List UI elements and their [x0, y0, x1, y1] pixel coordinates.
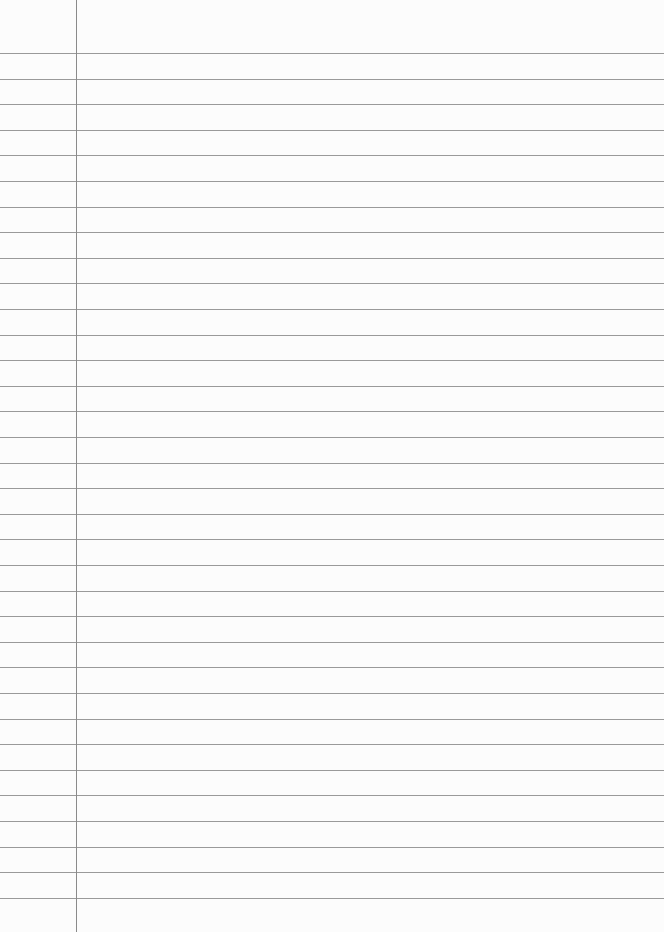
ruled-line	[0, 309, 664, 310]
ruled-line	[0, 821, 664, 822]
ruled-line	[0, 616, 664, 617]
ruled-line	[0, 360, 664, 361]
ruled-line	[0, 232, 664, 233]
ruled-line	[0, 411, 664, 412]
ruled-line	[0, 642, 664, 643]
ruled-line	[0, 744, 664, 745]
ruled-line	[0, 104, 664, 105]
ruled-line	[0, 795, 664, 796]
ruled-line	[0, 155, 664, 156]
ruled-line	[0, 847, 664, 848]
ruled-line	[0, 258, 664, 259]
ruled-line	[0, 335, 664, 336]
ruled-line	[0, 181, 664, 182]
ruled-line	[0, 53, 664, 54]
ruled-line	[0, 283, 664, 284]
ruled-line	[0, 207, 664, 208]
ruled-line	[0, 437, 664, 438]
ruled-line	[0, 770, 664, 771]
ruled-notebook-page	[0, 0, 664, 932]
ruled-line	[0, 463, 664, 464]
ruled-line	[0, 488, 664, 489]
ruled-line	[0, 898, 664, 899]
ruled-line	[0, 565, 664, 566]
margin-line	[76, 0, 77, 932]
ruled-line	[0, 719, 664, 720]
ruled-line	[0, 872, 664, 873]
ruled-line	[0, 79, 664, 80]
ruled-line	[0, 514, 664, 515]
ruled-line	[0, 386, 664, 387]
ruled-line	[0, 539, 664, 540]
ruled-line	[0, 130, 664, 131]
ruled-line	[0, 591, 664, 592]
ruled-line	[0, 693, 664, 694]
ruled-line	[0, 667, 664, 668]
